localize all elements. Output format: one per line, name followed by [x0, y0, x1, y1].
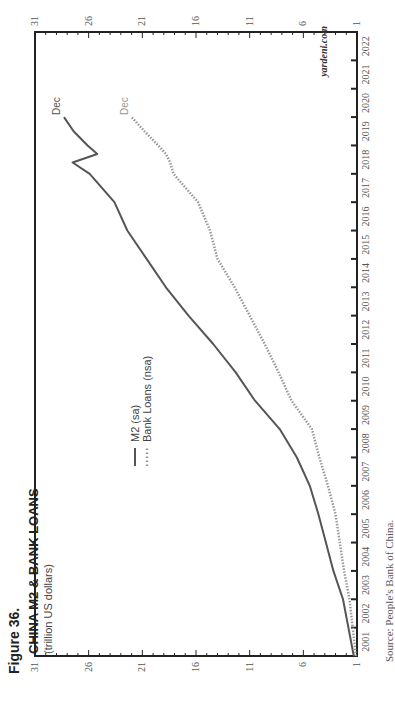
y-tick-label-right: 16 [190, 16, 201, 26]
y-tick-label-right: 31 [29, 16, 40, 26]
x-tick-label: 2010 [360, 377, 371, 397]
y-tick-label-left: 11 [244, 662, 255, 672]
x-tick-label: 2020 [360, 93, 371, 113]
x-tick-label: 2017 [360, 178, 371, 198]
legend-label: Bank Loans (nsa) [141, 356, 153, 442]
y-tick-label-right: 11 [244, 16, 255, 26]
y-tick-label-left: 16 [190, 662, 201, 672]
plot-frame [35, 32, 357, 656]
x-tick-label: 2013 [360, 291, 371, 311]
watermark: yardeni.com [318, 26, 329, 77]
y-tick-label-left: 21 [136, 662, 147, 672]
x-tick-label: 2022 [360, 36, 371, 56]
y-tick-label-right: 21 [136, 16, 147, 26]
y-tick-label-left: 1 [351, 662, 362, 667]
x-tick-label: 2019 [360, 121, 371, 141]
x-tick-label: 2009 [360, 405, 371, 425]
y-tick-label-left: 6 [297, 662, 308, 667]
x-tick-label: 2014 [360, 263, 371, 283]
y-tick-label-right: 1 [351, 21, 362, 26]
x-tick-label: 2004 [360, 547, 371, 567]
source-note: Source: People's Bank of China. [383, 520, 395, 662]
x-tick-label: 2018 [360, 150, 371, 170]
x-tick-label: 2021 [360, 65, 371, 85]
legend-label: M2 (sa) [129, 405, 141, 442]
x-tick-label: 2015 [360, 235, 371, 255]
x-tick-label: 2001 [360, 632, 371, 652]
x-tick-label: 2011 [360, 348, 371, 368]
y-tick-label-left: 31 [29, 662, 40, 672]
x-tick-label: 2012 [360, 320, 371, 340]
x-tick-label: 2002 [360, 603, 371, 623]
y-tick-label-right: 6 [297, 21, 308, 26]
m2-end-label: Dec [51, 97, 62, 115]
x-tick-label: 2006 [360, 490, 371, 510]
m2-line [64, 117, 354, 656]
x-tick-label: 2008 [360, 433, 371, 453]
x-tick-label: 2003 [360, 575, 371, 595]
y-tick-label-left: 26 [83, 662, 94, 672]
bank-loans-line [132, 117, 356, 656]
y-tick-label-right: 26 [83, 16, 94, 26]
x-tick-label: 2007 [360, 462, 371, 482]
x-tick-label: 2005 [360, 518, 371, 538]
x-tick-label: 2016 [360, 206, 371, 226]
loans-end-label: Dec [119, 97, 130, 115]
